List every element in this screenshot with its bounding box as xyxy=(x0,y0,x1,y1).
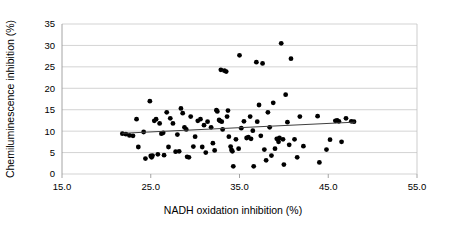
data-point xyxy=(134,117,139,122)
data-point xyxy=(198,117,203,122)
data-point xyxy=(136,145,141,150)
plot-svg: 05101520253035 15.025.035.045.055.0 NADH… xyxy=(0,0,449,227)
data-point xyxy=(175,132,180,137)
data-point xyxy=(237,53,242,58)
x-tick-labels: 15.025.035.045.055.0 xyxy=(53,181,427,192)
data-point xyxy=(231,164,236,169)
data-point xyxy=(155,152,160,157)
data-point xyxy=(234,137,239,142)
data-point xyxy=(215,109,220,114)
data-point xyxy=(212,148,217,153)
data-point xyxy=(301,144,306,149)
data-point xyxy=(324,147,329,152)
data-point xyxy=(262,147,267,152)
data-point xyxy=(147,99,152,104)
data-point xyxy=(292,137,297,142)
data-point xyxy=(328,137,333,142)
data-point xyxy=(344,116,349,121)
data-point xyxy=(184,127,189,132)
y-tick-labels: 05101520253035 xyxy=(44,18,55,179)
x-axis-title: NADH oxidation inhibition (%) xyxy=(164,204,302,216)
x-tick-label: 55.0 xyxy=(408,181,427,192)
y-axis-title: Chemiluminescence inhibition (%) xyxy=(4,20,16,178)
data-point xyxy=(339,139,344,144)
data-point xyxy=(220,127,225,132)
y-tick-label: 5 xyxy=(50,147,55,158)
data-point xyxy=(200,145,205,150)
data-point xyxy=(179,106,184,111)
data-point xyxy=(249,136,254,141)
data-point xyxy=(317,160,322,165)
data-point xyxy=(164,110,169,115)
data-point xyxy=(226,108,231,113)
data-point xyxy=(242,119,247,124)
scatter-chart: 05101520253035 15.025.035.045.055.0 NADH… xyxy=(0,0,449,227)
data-point xyxy=(289,56,294,61)
y-tick-label: 30 xyxy=(44,40,55,51)
data-points xyxy=(120,41,356,169)
data-point xyxy=(224,69,229,74)
data-point xyxy=(191,144,196,149)
data-point xyxy=(203,150,208,155)
data-point xyxy=(281,137,286,142)
x-axis-ticks xyxy=(62,174,417,178)
data-point xyxy=(248,114,253,119)
y-tick-label: 35 xyxy=(44,18,55,29)
x-tick-label: 15.0 xyxy=(53,181,72,192)
x-tick-label: 25.0 xyxy=(142,181,161,192)
trend-line-segment xyxy=(122,122,355,133)
x-tick-label: 35.0 xyxy=(230,181,249,192)
data-point xyxy=(210,141,215,146)
data-point xyxy=(162,153,167,158)
data-point xyxy=(143,156,148,161)
data-point xyxy=(254,60,259,65)
data-point xyxy=(250,128,255,133)
data-point xyxy=(166,145,171,150)
data-point xyxy=(171,121,176,126)
y-tick-label: 0 xyxy=(50,168,55,179)
data-point xyxy=(236,146,241,151)
data-point xyxy=(264,158,269,163)
plot-border xyxy=(62,24,417,174)
x-tick-label: 45.0 xyxy=(319,181,338,192)
data-point xyxy=(287,142,292,147)
data-point xyxy=(279,41,284,46)
data-point xyxy=(187,155,192,160)
data-point xyxy=(266,110,271,115)
data-point xyxy=(267,125,272,130)
data-point xyxy=(315,114,320,119)
y-tick-label: 10 xyxy=(44,126,55,137)
data-point xyxy=(150,153,155,158)
data-point xyxy=(251,164,256,169)
data-point xyxy=(273,146,278,151)
data-point xyxy=(260,61,265,66)
data-point xyxy=(230,149,235,154)
y-tick-label: 25 xyxy=(44,61,55,72)
data-point xyxy=(131,133,136,138)
data-point xyxy=(226,134,231,139)
data-point xyxy=(168,116,173,121)
data-point xyxy=(219,119,224,124)
data-point xyxy=(157,121,162,126)
data-point xyxy=(295,155,300,160)
y-tick-label: 15 xyxy=(44,104,55,115)
y-tick-label: 20 xyxy=(44,83,55,94)
data-point xyxy=(271,100,276,105)
data-point xyxy=(205,119,210,124)
data-point xyxy=(177,149,182,154)
data-point xyxy=(257,103,262,108)
data-point xyxy=(255,119,260,124)
data-point xyxy=(281,162,286,167)
data-point xyxy=(188,114,193,119)
data-point xyxy=(297,114,302,119)
data-point xyxy=(283,92,288,97)
data-point xyxy=(193,134,198,139)
grid-lines xyxy=(62,24,417,174)
trend-line xyxy=(122,122,355,133)
data-point xyxy=(269,153,274,158)
data-point xyxy=(225,114,230,119)
data-point xyxy=(285,120,290,125)
data-point xyxy=(258,133,263,138)
data-point xyxy=(154,117,159,122)
data-point xyxy=(202,123,207,128)
